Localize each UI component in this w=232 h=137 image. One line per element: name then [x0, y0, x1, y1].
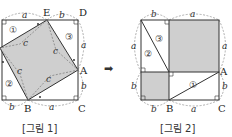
label-bottom-b: b	[9, 102, 15, 112]
point-b: B	[166, 103, 173, 114]
label-right-a: a	[222, 41, 227, 51]
label-left-b: b	[131, 81, 137, 91]
figure-1: E D A B C a b a b b a c c c c ① ② ③ [그림 …	[0, 7, 88, 134]
label-c-1: c	[23, 38, 28, 48]
region-2: ②	[144, 49, 152, 59]
label-c-3: c	[17, 66, 22, 76]
point-e: E	[43, 7, 50, 18]
region-1: ①	[9, 25, 17, 35]
point-c: C	[218, 103, 226, 114]
point-c: C	[78, 103, 86, 114]
label-right-b: b	[222, 81, 228, 91]
point-d: D	[79, 7, 87, 18]
label-bottom-a: a	[191, 104, 196, 114]
label-bottom-b: b	[151, 104, 157, 114]
label-top-b: b	[59, 10, 65, 20]
label-top-a: a	[190, 9, 195, 19]
point-a: A	[219, 66, 228, 77]
region-3: ③	[155, 34, 163, 44]
label-top-a: a	[22, 10, 27, 20]
label-top-b: b	[151, 9, 157, 19]
point-a: A	[79, 65, 88, 76]
figure-2: b a a a b b b a A B C ① ② ③ [그림 2]	[131, 9, 228, 134]
label-left-a: a	[131, 41, 136, 51]
caption-figure-2: [그림 2]	[160, 123, 195, 134]
label-right-b: b	[81, 81, 87, 91]
pythagoras-diagram: E D A B C a b a b b a c c c c ① ② ③ [그림 …	[0, 0, 232, 137]
region-3: ③	[65, 32, 73, 42]
region-2: ②	[5, 79, 13, 89]
label-c-2: c	[53, 46, 58, 56]
caption-figure-1: [그림 1]	[22, 123, 57, 134]
region-1: ①	[189, 80, 197, 90]
point-b: B	[24, 103, 31, 114]
label-bottom-a: a	[49, 102, 54, 112]
arrow-right-icon: ➡	[104, 62, 113, 75]
label-c-4: c	[46, 74, 51, 84]
label-right-a: a	[81, 40, 86, 50]
